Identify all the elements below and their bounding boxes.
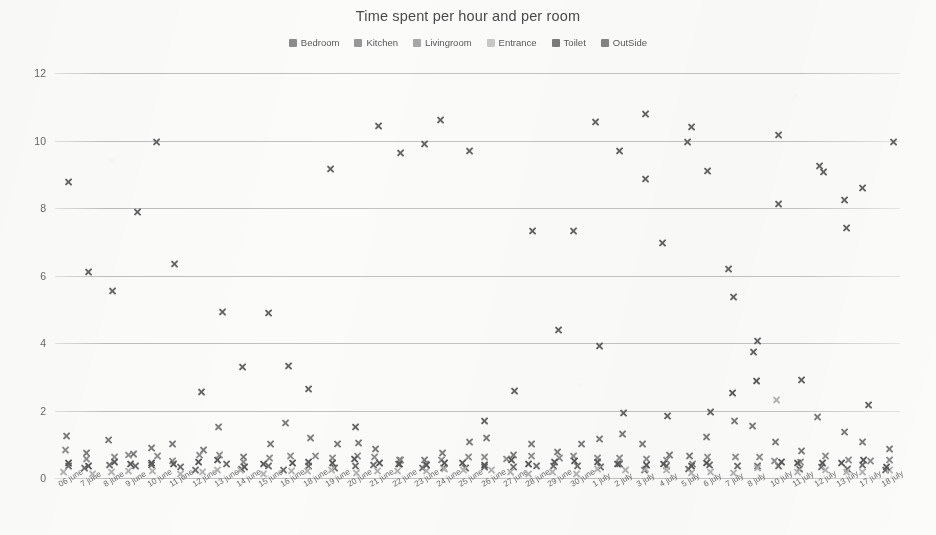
data-point-kitchen xyxy=(104,436,113,445)
data-point-kitchen xyxy=(703,432,712,441)
legend-label: Toilet xyxy=(564,37,586,48)
data-point-toilet xyxy=(289,459,298,468)
legend-swatch-icon xyxy=(552,39,560,47)
data-point-outside xyxy=(798,375,807,384)
data-point-bedroom xyxy=(222,460,231,469)
data-point-kitchen xyxy=(730,417,739,426)
data-point-toilet xyxy=(777,458,786,467)
gridline-y-6 xyxy=(55,276,900,277)
data-point-outside xyxy=(465,146,474,155)
data-point-entrance xyxy=(88,470,97,479)
data-point-kitchen xyxy=(858,437,867,446)
y-axis-tick-label: 0 xyxy=(40,472,46,484)
data-point-outside xyxy=(152,138,161,147)
data-point-kitchen xyxy=(307,433,316,442)
data-point-outside xyxy=(510,387,519,396)
data-point-toilet xyxy=(480,460,489,469)
data-point-kitchen xyxy=(62,431,71,440)
data-point-entrance xyxy=(198,467,207,476)
data-point-toilet xyxy=(570,457,579,466)
chart-legend: BedroomKitchenLivingroomEntranceToiletOu… xyxy=(0,37,936,48)
data-point-outside xyxy=(436,116,445,125)
legend-item-outside[interactable]: OutSide xyxy=(601,37,647,48)
data-point-toilet xyxy=(375,459,384,468)
data-point-outside xyxy=(641,175,650,184)
data-point-toilet xyxy=(882,462,891,471)
data-point-kitchen xyxy=(266,439,275,448)
legend-item-bedroom[interactable]: Bedroom xyxy=(289,37,340,48)
data-point-outside xyxy=(218,308,227,317)
data-point-toilet xyxy=(169,459,178,468)
data-point-toilet xyxy=(642,460,651,469)
data-point-toilet xyxy=(194,458,203,467)
data-point-outside xyxy=(304,384,313,393)
legend-label: Entrance xyxy=(499,37,537,48)
data-point-kitchen xyxy=(281,418,290,427)
data-point-outside xyxy=(706,407,715,416)
y-axis-tick-label: 2 xyxy=(40,405,46,417)
legend-label: Livingroom xyxy=(425,37,471,48)
data-point-toilet xyxy=(304,457,313,466)
data-point-toilet xyxy=(614,459,623,468)
data-point-kitchen xyxy=(577,439,586,448)
data-point-outside xyxy=(775,199,784,208)
data-point-livingroom xyxy=(755,452,764,461)
data-point-outside xyxy=(729,293,738,302)
data-point-toilet xyxy=(687,462,696,471)
data-point-toilet xyxy=(550,458,559,467)
data-point-outside xyxy=(840,196,849,205)
data-point-kitchen xyxy=(215,422,224,431)
data-point-outside xyxy=(326,165,335,174)
legend-item-livingroom[interactable]: Livingroom xyxy=(413,37,471,48)
data-point-outside xyxy=(591,117,600,126)
data-point-entrance xyxy=(304,467,313,476)
data-point-outside xyxy=(351,423,360,432)
gridline-y-8 xyxy=(55,208,900,209)
data-point-toilet xyxy=(837,459,846,468)
data-point-outside xyxy=(481,416,490,425)
data-point-outside xyxy=(774,131,783,140)
data-point-outside xyxy=(816,161,825,170)
data-point-outside xyxy=(420,139,429,148)
data-point-outside xyxy=(374,121,383,130)
legend-item-entrance[interactable]: Entrance xyxy=(487,37,537,48)
legend-item-toilet[interactable]: Toilet xyxy=(552,37,586,48)
data-point-entrance xyxy=(573,469,582,478)
data-point-toilet xyxy=(260,459,269,468)
data-point-livingroom xyxy=(61,446,70,455)
data-point-outside xyxy=(615,146,624,155)
data-point-outside xyxy=(683,137,692,146)
legend-label: Kitchen xyxy=(366,37,398,48)
data-point-outside xyxy=(750,347,759,356)
data-point-toilet xyxy=(818,459,827,468)
y-axis-tick-label: 8 xyxy=(40,202,46,214)
y-axis-tick-label: 12 xyxy=(34,67,46,79)
data-point-outside xyxy=(753,337,762,346)
data-point-bedroom xyxy=(532,462,541,471)
legend-swatch-icon xyxy=(413,39,421,47)
data-point-kitchen xyxy=(840,428,849,437)
data-point-toilet xyxy=(753,376,762,385)
data-point-entrance xyxy=(753,463,762,472)
data-point-entrance xyxy=(213,465,222,474)
data-point-outside xyxy=(197,388,206,397)
data-point-entrance xyxy=(549,467,558,476)
data-point-outside xyxy=(842,224,851,233)
x-axis-tick-label: 8 july xyxy=(746,471,767,489)
data-point-entrance xyxy=(148,467,157,476)
legend-swatch-icon xyxy=(487,39,495,47)
data-point-outside xyxy=(171,259,180,268)
legend-item-kitchen[interactable]: Kitchen xyxy=(354,37,398,48)
data-point-kitchen xyxy=(482,433,491,442)
data-point-toilet xyxy=(395,459,404,468)
data-point-kitchen xyxy=(595,434,604,443)
data-point-toilet xyxy=(126,460,135,469)
data-point-toilet xyxy=(728,389,737,398)
data-point-outside xyxy=(397,148,406,157)
data-point-outside xyxy=(658,239,667,248)
data-point-kitchen xyxy=(168,439,177,448)
data-point-entrance xyxy=(176,469,185,478)
legend-label: OutSide xyxy=(613,37,647,48)
data-point-outside xyxy=(641,110,650,119)
data-point-entrance xyxy=(59,467,68,476)
